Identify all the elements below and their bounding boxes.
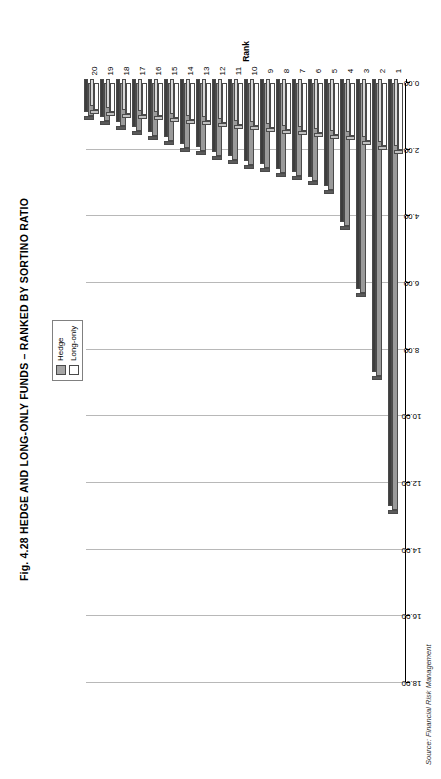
category-axis-tick-label: 2 bbox=[378, 63, 387, 79]
category-axis-tick-label: 14 bbox=[186, 63, 195, 79]
bar-long-only-rank-14 bbox=[190, 83, 195, 120]
bar-face bbox=[270, 83, 275, 128]
bar-end-cap bbox=[90, 110, 99, 114]
value-axis-tick-label: 16.00 bbox=[393, 606, 416, 626]
bar-face bbox=[334, 83, 339, 135]
bar-face bbox=[366, 83, 371, 141]
bar-end-cap bbox=[154, 116, 163, 120]
bar-long-only-rank-5 bbox=[334, 83, 339, 135]
value-axis-tick-label-text: 2.00 bbox=[404, 145, 420, 154]
category-axis-tick-label: 7 bbox=[298, 63, 307, 79]
value-axis-tick-label-text: 10.00 bbox=[401, 412, 421, 421]
category-axis-tick-label: 15 bbox=[170, 63, 179, 79]
value-axis-tick-label: 14.00 bbox=[393, 540, 416, 560]
value-axis-tick-label-text: 16.00 bbox=[401, 612, 421, 621]
bar-end-cap bbox=[132, 131, 141, 135]
bar-face bbox=[318, 83, 323, 133]
bar-end-cap bbox=[378, 146, 387, 150]
gridline bbox=[86, 482, 406, 483]
value-axis-tick-label-text: 12.00 bbox=[401, 479, 421, 488]
category-axis-tick-label: 3 bbox=[362, 63, 371, 79]
bar-end-cap bbox=[84, 116, 93, 120]
category-axis-tick-label: 5 bbox=[330, 63, 339, 79]
rotated-figure-canvas: Fig. 4.28 HEDGE AND LONG-ONLY FUNDS – RA… bbox=[0, 0, 441, 779]
bar-face bbox=[238, 83, 243, 125]
bar-long-only-rank-8 bbox=[286, 83, 291, 130]
bar-face bbox=[142, 83, 147, 115]
legend-item-hedge: Hedge bbox=[56, 326, 66, 375]
bar-long-only-rank-12 bbox=[222, 83, 227, 123]
bar-face bbox=[206, 83, 211, 121]
bar-end-cap bbox=[266, 128, 275, 132]
value-axis-tick-label-text: 6.00 bbox=[404, 279, 420, 288]
bar-hedge-rank-1 bbox=[392, 83, 397, 510]
gridline bbox=[86, 415, 406, 416]
category-axis-tick-label: 20 bbox=[90, 63, 99, 79]
value-axis-tick-label-text: 8.00 bbox=[404, 345, 420, 354]
bar-long-only-rank-7 bbox=[302, 83, 307, 131]
category-axis-tick-label: 16 bbox=[154, 63, 163, 79]
bar-long-only-rank-16 bbox=[158, 83, 163, 116]
bar-long-only-rank-11 bbox=[238, 83, 243, 125]
category-axis-line bbox=[405, 83, 406, 683]
bar-end-cap bbox=[244, 165, 253, 169]
bar-long-only-rank-4 bbox=[350, 83, 355, 136]
bar-end-cap bbox=[292, 176, 301, 180]
category-axis-tick-label: 8 bbox=[282, 63, 291, 79]
bar-long-only-rank-17 bbox=[142, 83, 147, 115]
category-axis-tick-label: 11 bbox=[234, 63, 243, 79]
bar-end-cap bbox=[250, 126, 259, 130]
bar-end-cap bbox=[340, 226, 349, 230]
bar-end-cap bbox=[356, 293, 365, 297]
value-axis-tick-label-text: 18.00 bbox=[401, 679, 421, 688]
legend-swatch-icon bbox=[69, 365, 79, 375]
category-axis-tick bbox=[406, 79, 407, 83]
bar-end-cap bbox=[298, 131, 307, 135]
bar-face bbox=[254, 83, 259, 126]
bar-end-cap bbox=[148, 136, 157, 140]
category-axis-tick-label: 17 bbox=[138, 63, 147, 79]
bar-face bbox=[222, 83, 227, 123]
category-axis-tick-label: 10 bbox=[250, 63, 259, 79]
chart-legend: HedgeLong-only bbox=[52, 320, 83, 381]
bar-end-cap bbox=[180, 148, 189, 152]
category-axis-tick-label: 6 bbox=[314, 63, 323, 79]
bar-end-cap bbox=[228, 160, 237, 164]
bar-face bbox=[382, 83, 387, 146]
bar-long-only-rank-9 bbox=[270, 83, 275, 128]
bar-end-cap bbox=[186, 120, 195, 124]
category-axis-tick-label: 4 bbox=[346, 63, 355, 79]
bar-long-only-rank-6 bbox=[318, 83, 323, 133]
category-axis-tick-label: 19 bbox=[106, 63, 115, 79]
figure-title: Fig. 4.28 HEDGE AND LONG-ONLY FUNDS – RA… bbox=[18, 0, 30, 779]
category-axis-tick-label: 12 bbox=[218, 63, 227, 79]
bar-face bbox=[126, 83, 131, 114]
gridline bbox=[86, 349, 406, 350]
category-axis-tick-label: 1 bbox=[394, 63, 403, 79]
bar-end-cap bbox=[362, 141, 371, 145]
bar-end-cap bbox=[394, 150, 403, 154]
bar-long-only-rank-1 bbox=[398, 83, 403, 150]
category-axis-tick-label: 13 bbox=[202, 63, 211, 79]
category-axis-tick-label: 18 bbox=[122, 63, 131, 79]
chart-plot-area: 0.002.004.006.008.0010.0012.0014.0016.00… bbox=[86, 83, 406, 683]
bar-long-only-rank-10 bbox=[254, 83, 259, 126]
bar-end-cap bbox=[106, 112, 115, 116]
value-axis-tick-label: 18.00 bbox=[393, 673, 416, 693]
bar-end-cap bbox=[164, 141, 173, 145]
bar-end-cap bbox=[324, 190, 333, 194]
bar-end-cap bbox=[276, 173, 285, 177]
bar-end-cap bbox=[234, 125, 243, 129]
bar-face bbox=[302, 83, 307, 131]
bar-end-cap bbox=[282, 130, 291, 134]
bar-end-cap bbox=[346, 136, 355, 140]
bar-long-only-rank-20 bbox=[94, 83, 99, 110]
bar-long-only-rank-19 bbox=[110, 83, 115, 112]
bar-end-cap bbox=[116, 126, 125, 130]
gridline bbox=[86, 549, 406, 550]
bar-long-only-rank-3 bbox=[366, 83, 371, 141]
bar-end-cap bbox=[170, 118, 179, 122]
bar-face bbox=[350, 83, 355, 136]
bar-long-only-rank-13 bbox=[206, 83, 211, 121]
bar-end-cap bbox=[260, 168, 269, 172]
